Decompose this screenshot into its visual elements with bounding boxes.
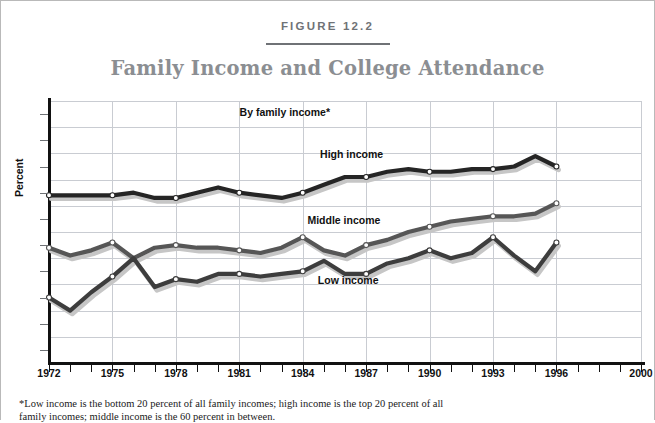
- annotation-by-family-income: By family income*: [240, 106, 330, 118]
- x-axis-minor-tick: [620, 365, 621, 372]
- data-point-marker: [173, 277, 178, 282]
- footnote-line-1: *Low income is the bottom 20 percent of …: [19, 397, 619, 410]
- data-point-marker: [364, 243, 369, 248]
- x-axis-minor-tick: [578, 365, 579, 372]
- x-axis-minor-tick: [472, 365, 473, 372]
- x-axis-minor-tick: [641, 365, 642, 372]
- series-high-income: [47, 156, 559, 201]
- x-axis-minor-tick: [134, 365, 135, 372]
- data-point-marker: [173, 243, 178, 248]
- data-point-marker: [491, 167, 496, 172]
- figure-rule-divider: [266, 43, 390, 45]
- x-axis-minor-tick: [303, 365, 304, 372]
- y-axis-minor-tick: [40, 219, 48, 220]
- y-axis-minor-tick: [40, 324, 48, 325]
- data-point-marker: [300, 269, 305, 274]
- data-point-marker: [427, 248, 432, 253]
- chart-plot-area: By family income* High income Middle inc…: [49, 101, 641, 363]
- x-axis-minor-tick: [514, 365, 515, 372]
- data-point-marker: [300, 235, 305, 240]
- x-axis-minor-tick: [408, 365, 409, 372]
- x-axis-minor-tick: [345, 365, 346, 372]
- y-axis-minor-tick: [40, 350, 48, 351]
- x-axis-minor-tick: [387, 365, 388, 372]
- figure-number: FIGURE 12.2: [1, 20, 654, 32]
- data-point-marker: [110, 274, 115, 279]
- x-axis-minor-tick: [239, 365, 240, 372]
- data-point-marker: [427, 224, 432, 229]
- x-axis-minor-tick: [430, 365, 431, 372]
- y-axis-minor-tick: [40, 245, 48, 246]
- y-axis-title: Percent: [13, 158, 25, 197]
- data-point-marker: [554, 201, 559, 206]
- data-point-marker: [237, 271, 242, 276]
- x-axis-minor-tick: [260, 365, 261, 372]
- x-axis-minor-tick: [155, 365, 156, 372]
- x-axis-minor-tick: [282, 365, 283, 372]
- figure-footnote: *Low income is the bottom 20 percent of …: [19, 397, 619, 423]
- y-axis-minor-tick: [40, 271, 48, 272]
- gridline-vertical: [641, 101, 642, 363]
- x-axis-tick-label: 2000: [611, 367, 655, 379]
- data-point-marker: [110, 240, 115, 245]
- data-point-marker: [237, 248, 242, 253]
- figure-title: Family Income and College Attendance: [1, 57, 654, 80]
- data-point-marker: [491, 214, 496, 219]
- x-axis-minor-tick: [218, 365, 219, 372]
- chart-series-group: [49, 101, 641, 363]
- x-axis-minor-tick: [535, 365, 536, 372]
- data-point-marker: [110, 193, 115, 198]
- y-axis-minor-tick: [40, 140, 48, 141]
- x-axis-minor-tick: [197, 365, 198, 372]
- x-axis-minor-tick: [366, 365, 367, 372]
- y-axis-minor-tick: [40, 114, 48, 115]
- data-point-marker: [300, 190, 305, 195]
- x-axis-minor-tick: [451, 365, 452, 372]
- footnote-line-2: family incomes; middle income is the 60 …: [19, 410, 619, 423]
- x-axis-minor-tick: [493, 365, 494, 372]
- x-axis-minor-tick: [49, 365, 50, 372]
- data-point-marker: [364, 174, 369, 179]
- data-point-marker: [173, 195, 178, 200]
- data-point-marker: [554, 164, 559, 169]
- annotation-low-income: Low income: [318, 274, 379, 286]
- data-point-marker: [491, 235, 496, 240]
- data-point-marker: [554, 240, 559, 245]
- y-axis-minor-tick: [40, 167, 48, 168]
- x-axis-minor-tick: [599, 365, 600, 372]
- y-axis-minor-tick: [40, 298, 48, 299]
- series-low-income: [47, 235, 559, 314]
- data-point-marker: [237, 190, 242, 195]
- annotation-middle-income: Middle income: [307, 214, 380, 226]
- annotation-high-income: High income: [320, 148, 383, 160]
- x-axis-minor-tick: [91, 365, 92, 372]
- x-axis-minor-tick: [556, 365, 557, 372]
- x-axis-minor-tick: [324, 365, 325, 372]
- x-axis-minor-tick: [176, 365, 177, 372]
- data-point-marker: [427, 169, 432, 174]
- x-axis-minor-tick: [70, 365, 71, 372]
- x-axis-minor-tick: [112, 365, 113, 372]
- y-axis-minor-tick: [40, 193, 48, 194]
